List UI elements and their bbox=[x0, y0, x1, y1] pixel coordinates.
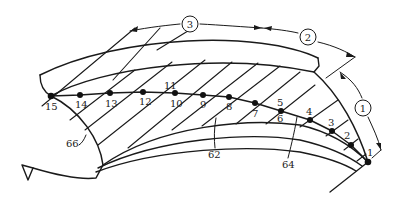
svg-text:64: 64 bbox=[282, 159, 295, 170]
point-marker-7 bbox=[252, 100, 258, 106]
point-label-9: 9 bbox=[200, 99, 206, 110]
point-label-2: 2 bbox=[344, 130, 350, 141]
zone-label-1: 1 bbox=[355, 100, 371, 116]
arrow-head-3-left bbox=[130, 26, 138, 32]
point-label-4: 4 bbox=[306, 106, 312, 117]
zone-label-2: 2 bbox=[300, 29, 316, 45]
arrow-head-2-right bbox=[346, 52, 355, 57]
point-label-10: 10 bbox=[170, 98, 183, 109]
lower-curve-b bbox=[98, 137, 362, 168]
point-label-15: 15 bbox=[45, 101, 58, 112]
arrow-head-1-bottom bbox=[376, 143, 381, 150]
point-marker-14 bbox=[77, 92, 83, 98]
zone-label-3: 3 bbox=[182, 16, 198, 32]
svg-text:2: 2 bbox=[305, 32, 311, 43]
blade-section-diagram: 3 2 1 15 14 13 12 11 10 9 8 7 5 6 4 bbox=[0, 0, 404, 204]
point-marker-12 bbox=[140, 89, 146, 95]
point-label-6: 6 bbox=[277, 113, 283, 124]
point-label-12: 12 bbox=[139, 96, 152, 107]
svg-text:1: 1 bbox=[360, 103, 366, 114]
point-marker-13 bbox=[107, 90, 113, 96]
dimension-arc-3-right bbox=[200, 24, 262, 28]
base-notch bbox=[22, 165, 33, 180]
svg-text:3: 3 bbox=[187, 19, 193, 30]
point-label-3: 3 bbox=[328, 117, 334, 128]
svg-text:66: 66 bbox=[66, 138, 79, 149]
point-label-8: 8 bbox=[226, 101, 232, 112]
point-marker-2 bbox=[348, 142, 354, 148]
point-label-5: 5 bbox=[277, 97, 283, 108]
point-label-7: 7 bbox=[252, 108, 258, 119]
point-label-1: 1 bbox=[367, 147, 373, 158]
left-closure-curve bbox=[40, 75, 51, 96]
lower-curve-c bbox=[96, 149, 356, 172]
point-marker-9 bbox=[200, 92, 206, 98]
point-label-13: 13 bbox=[105, 98, 118, 109]
reference-label-66: 66 bbox=[66, 135, 86, 149]
point-marker-15 bbox=[48, 93, 55, 100]
point-label-14: 14 bbox=[75, 99, 88, 110]
outer-boundary-curve bbox=[40, 40, 318, 75]
point-marker-3 bbox=[329, 128, 335, 134]
point-label-11: 11 bbox=[164, 80, 177, 91]
base-curve bbox=[33, 165, 103, 179]
point-marker-1 bbox=[365, 159, 372, 166]
boundary-step bbox=[314, 58, 319, 72]
point-marker-8 bbox=[226, 94, 232, 100]
point-marker-4 bbox=[307, 117, 313, 123]
svg-text:62: 62 bbox=[208, 149, 221, 160]
arrow-head-2-left bbox=[264, 26, 272, 31]
